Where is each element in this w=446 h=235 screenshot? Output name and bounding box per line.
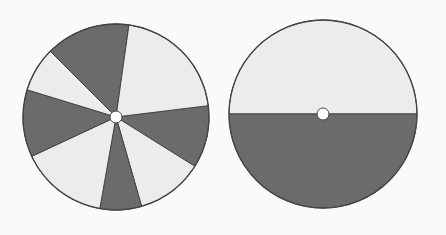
right-half-disk: [229, 20, 417, 208]
figure-canvas: [0, 0, 446, 235]
top-half: [229, 20, 417, 114]
bottom-half: [229, 114, 417, 208]
center-hole: [317, 108, 329, 120]
center-hole: [110, 111, 122, 123]
left-sector-disk: [23, 24, 209, 210]
light-sector: [116, 25, 208, 117]
